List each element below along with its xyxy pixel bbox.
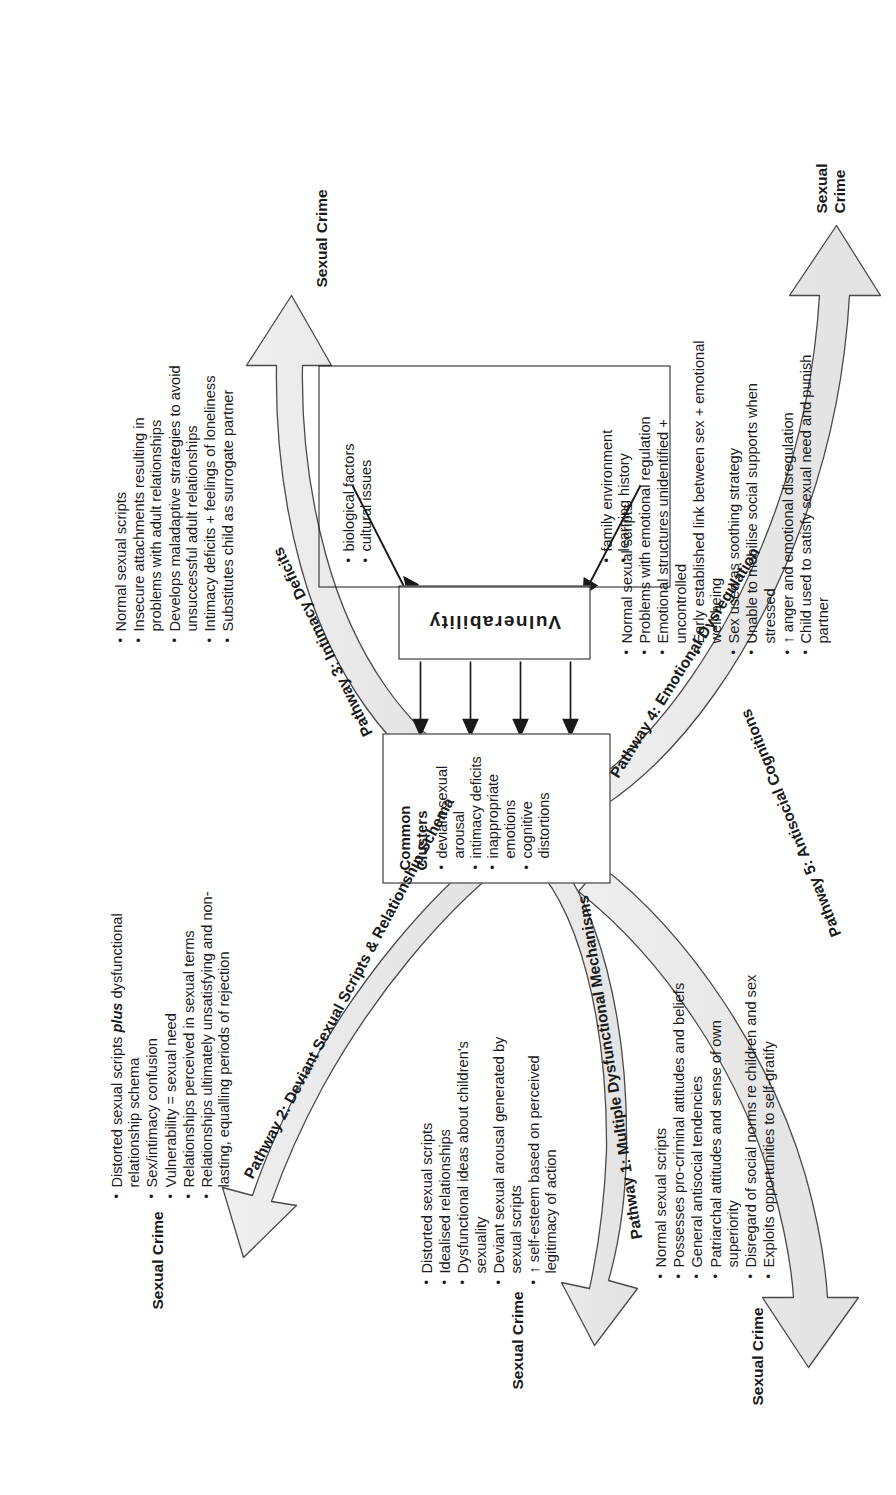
pathway-2-outcome-label: Sexual Crime [148,1211,166,1309]
pathway-item: Deviant sexual arousal generated by sexu… [490,1035,524,1285]
figure-page: Vulnerability biological factors cultura… [0,0,896,1495]
pathway-item: Possesses pro-criminal attitudes and bel… [670,959,687,1279]
pathway-5-items: Normal sexual scripts Possesses pro-crim… [652,959,778,1279]
pathway-item: Relationships perceived in sexual terms [180,869,197,1199]
pathway-5-outcome-label: Sexual Crime [748,1307,766,1405]
pathway-3-outcome-label: Sexual Crime [312,189,330,287]
pathway-item: Normal sexual scripts [618,337,635,655]
pathway-item: Develops maladaptive strategies to avoid… [166,353,200,643]
pathway-item: Sex/intimacy confusion [143,869,160,1199]
pathway-2-item0-pre: Distorted sexual scripts [108,1032,124,1187]
pathway-item: Emotional structures unidentified + unco… [654,337,688,655]
factor-item: cultural issues [357,373,374,563]
vulnerability-to-clusters-arrows [413,661,577,735]
pathway-3-items: Normal sexual scripts Insecure attachmen… [112,353,237,643]
pathway-item: ↑ anger and emotional disregulation [779,337,796,655]
pathway-2-items: Distorted sexual scripts plus dysfunctio… [108,869,233,1199]
cluster-item: inappropriate emotions [484,744,518,870]
pathway-item: Dysfunctional ideas about children's sex… [454,1035,488,1285]
cluster-item: intimacy deficits [467,744,484,870]
vulnerability-factors-right: biological factors cultural issues [340,373,374,563]
pathway-item: ↑ self-esteem based on perceived legitim… [525,1035,559,1285]
pathway-item: Substitutes child as surrogate partner [219,353,236,643]
pathway-item: Intimacy deficits + feelings of loneline… [201,353,218,643]
factor-item: biological factors [340,373,357,563]
pathway-1-items: Distorted sexual scripts Idealised relat… [418,1035,561,1285]
pathways-model-diagram: Vulnerability biological factors cultura… [0,0,896,1495]
pathway-item: Patriarchal attitudes and sense of own s… [707,959,741,1279]
pathway-item: General antisocial tendencies [688,959,705,1279]
pathway-item: Relationships ultimately unsatisfying an… [198,869,232,1199]
vulnerability-box: Vulnerability [398,585,590,659]
cluster-item: cognitive distortions [518,744,552,870]
pathway-2-item0-emphasis: plus [108,1002,124,1032]
outcome-line-1: Sexual [812,163,830,213]
pathway-item: Insecure attachments resulting in proble… [130,353,164,643]
vulnerability-label: Vulnerability [428,611,561,633]
pathway-item: Distorted sexual scripts [418,1035,435,1285]
factor-item: family environment [598,373,615,563]
pathway-item: Child used to satisfy sexual need and pu… [797,337,831,655]
pathway-item: Disregard of social norms re children an… [742,959,759,1279]
pathway-item: Normal sexual scripts [112,353,129,643]
pathway-4-outcome-label: Sexual Crime [812,163,848,213]
outcome-line-2: Crime [830,163,848,213]
pathway-item: Problems with emotional regulation [636,337,653,655]
pathway-item: Normal sexual scripts [652,959,669,1279]
pathway-1-outcome-label: Sexual Crime [508,1291,526,1389]
pathway-item: Distorted sexual scripts plus dysfunctio… [108,869,142,1199]
pathway-item: Vulnerability = sexual need [162,869,179,1199]
pathway-item: Exploits opportunities to self-gratify [760,959,777,1279]
pathway-item: Idealised relationships [436,1035,453,1285]
pathway-item: Unable to mobilise social supports when … [743,337,777,655]
